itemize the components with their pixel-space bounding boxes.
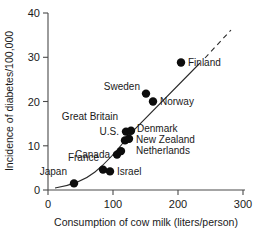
x-tick-label-100: 100 [104,198,122,210]
point-label-norway: Norway [160,96,194,107]
point-label-finland: Finland [188,57,221,68]
datapoint-new-zealand [125,135,133,143]
point-label-us: U.S. [100,126,119,137]
y-tick-label-10: 10 [28,140,40,152]
datapoint-japan [70,179,78,187]
datapoint-sweden [142,89,150,97]
y-tick-label-20: 20 [28,96,40,108]
chart-svg: 0 10 20 30 40 0 100 200 300 Consumption … [0,0,262,232]
datapoint-denmark [127,127,135,135]
datapoint-netherlands [117,147,125,155]
x-tick-label-300: 300 [234,198,252,210]
y-tick-label-40: 40 [28,7,40,19]
x-tick-label-200: 200 [169,198,187,210]
datapoint-france [99,165,107,173]
point-label-canada: Canada [75,149,110,160]
point-label-netherlands: Netherlands [136,145,190,156]
point-label-great-britain: Great Britain [62,111,118,122]
y-tick-label-0: 0 [34,184,40,196]
x-tick-label-0: 0 [45,198,51,210]
point-label-japan: Japan [40,166,67,177]
datapoint-israel [106,167,114,175]
point-label-new-zealand: New Zealand [136,134,195,145]
point-label-sweden: Sweden [104,81,140,92]
x-axis-title: Consumption of cow milk (liters/person) [54,216,238,228]
y-tick-label-30: 30 [28,51,40,63]
datapoint-finland [177,58,185,66]
scatter-chart: 0 10 20 30 40 0 100 200 300 Consumption … [0,0,262,232]
datapoint-norway [149,97,157,105]
point-label-israel: Israel [117,166,141,177]
y-axis-title: Incidence of diabetes/100,000 [3,31,15,171]
trendline-dashed-extension [205,30,231,58]
point-label-denmark: Denmark [137,123,179,134]
